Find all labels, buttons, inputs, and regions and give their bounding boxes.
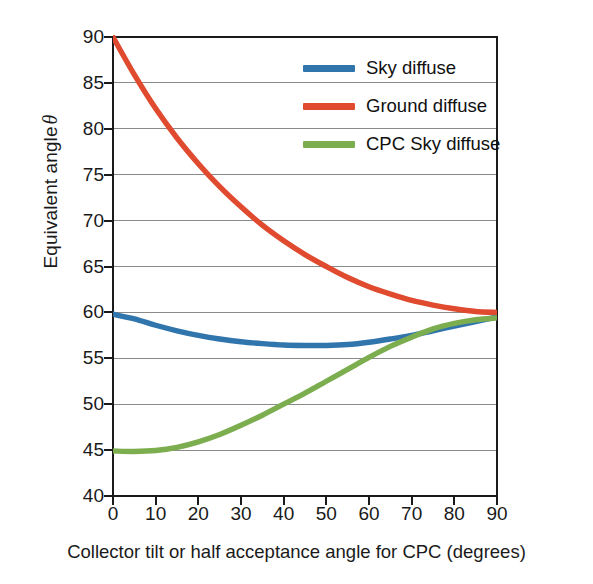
- y-axis-tick-label: 80: [58, 118, 104, 140]
- legend-label: Sky diffuse: [366, 57, 456, 79]
- y-axis-tick-label: 75: [58, 164, 104, 186]
- legend-label: Ground diffuse: [366, 95, 487, 117]
- chart-figure: Equivalent angleθ 4045505560657075808590…: [0, 0, 593, 584]
- legend-item[interactable]: CPC Sky diffuse: [303, 125, 488, 163]
- y-axis-tick-labels: 4045505560657075808590: [58, 0, 104, 584]
- y-axis-tick-label: 55: [58, 347, 104, 369]
- y-axis-tick-label: 85: [58, 72, 104, 94]
- y-axis-tick-label: 50: [58, 393, 104, 415]
- x-axis-tick-label: 90: [467, 503, 527, 525]
- legend-label: CPC Sky diffuse: [366, 133, 500, 155]
- legend-swatch-icon: [303, 65, 355, 72]
- series-line-2: [113, 318, 497, 452]
- legend-swatch-icon: [303, 141, 355, 148]
- x-axis-title: Collector tilt or half acceptance angle …: [0, 541, 593, 563]
- legend-item[interactable]: Sky diffuse: [303, 49, 488, 87]
- chart-legend: Sky diffuseGround diffuseCPC Sky diffuse: [303, 49, 488, 163]
- x-axis-tick-labels: 0102030405060708090: [0, 503, 593, 533]
- y-axis-tick-label: 65: [58, 256, 104, 278]
- legend-swatch-icon: [303, 103, 355, 110]
- y-axis-tick-label: 70: [58, 210, 104, 232]
- legend-item[interactable]: Ground diffuse: [303, 87, 488, 125]
- y-axis-tick-label: 90: [58, 26, 104, 48]
- y-axis-tick-label: 45: [58, 439, 104, 461]
- y-axis-tick-label: 60: [58, 301, 104, 323]
- series-line-0: [113, 314, 497, 345]
